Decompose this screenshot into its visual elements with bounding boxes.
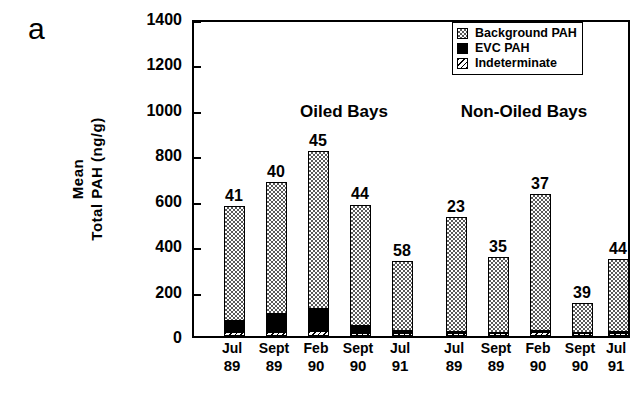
x-tick-year: 90 [304,356,329,376]
bar-value-label: 58 [393,242,411,260]
bar [572,303,593,336]
bar-segment-indeterminate [392,333,413,336]
bar-segment-background-pah [446,217,467,332]
bar-value-label: 35 [489,238,507,256]
legend-label: EVC PAH [475,42,530,55]
bar-segment-evc-pah [308,309,329,331]
bar-segment-indeterminate [224,332,245,336]
bar [308,151,329,336]
y-axis-title-line1: Mean [69,159,86,199]
x-tick-year: 91 [390,356,410,376]
bar-segment-indeterminate [572,333,593,336]
y-tick-label: 1400 [146,11,182,29]
y-axis-tick-mark [194,66,201,68]
x-tick-year: 89 [444,356,464,376]
bar [392,261,413,336]
y-tick-label: 200 [155,284,182,302]
bar [224,206,245,336]
bar [530,194,551,336]
y-tick-label: 1000 [146,102,182,120]
legend-swatch-evc-icon [457,43,468,54]
bar [266,182,287,336]
y-axis-tick-mark [194,21,201,23]
y-axis-tick-mark [194,157,201,159]
x-tick-year: 89 [259,356,289,376]
x-tick-month: Feb [304,340,329,356]
x-tick-month: Jul [606,340,626,356]
y-axis-title: Mean Total PAH (ng/g) [58,20,118,338]
y-tick-label: 400 [155,238,182,256]
x-tick-year: 89 [222,356,242,376]
legend-item: Indeterminate [457,56,577,71]
y-axis-tick-mark [194,248,201,250]
bar-segment-indeterminate [266,332,287,336]
legend-swatch-indeterminate-icon [457,58,468,69]
bar-value-label: 37 [531,175,549,193]
y-tick-label: 1200 [146,56,182,74]
x-tick-month: Feb [526,340,551,356]
x-tick-year: 91 [606,356,626,376]
x-tick-label: Sept90 [565,340,595,376]
x-tick-month: Sept [481,340,511,356]
chart-legend: Background PAHEVC PAHIndeterminate [452,22,583,75]
x-tick-label: Feb90 [526,340,551,376]
x-tick-year: 89 [481,356,511,376]
x-tick-label: Sept89 [481,340,511,376]
bar-value-label: 45 [309,132,327,150]
bar-segment-background-pah [572,303,593,333]
y-axis-tick-mark [194,203,201,205]
x-tick-label: Jul89 [222,340,242,376]
legend-label: Indeterminate [475,57,557,70]
bar-value-label: 41 [225,187,243,205]
bar-segment-background-pah [530,194,551,331]
bar-value-label: 23 [447,198,465,216]
x-tick-label: Jul91 [606,340,626,376]
group-title-oiled: Oiled Bays [300,102,388,122]
bar-segment-background-pah [392,261,413,331]
x-tick-year: 90 [526,356,551,376]
x-axis-tick-labels: Jul89Sept89Feb90Sept90Jul91Jul89Sept89Fe… [192,340,630,396]
panel-letter: a [28,14,45,44]
bar-segment-indeterminate [350,333,371,336]
x-tick-label: Jul91 [390,340,410,376]
x-tick-label: Sept90 [343,340,373,376]
bar-segment-indeterminate [608,333,629,336]
x-tick-month: Jul [222,340,242,356]
figure-panel: a Mean Total PAH (ng/g) 0200400600800100… [0,0,644,402]
bar-segment-evc-pah [266,314,287,332]
x-tick-year: 90 [343,356,373,376]
bar-segment-background-pah [266,182,287,314]
bar-segment-background-pah [224,206,245,321]
x-tick-month: Jul [390,340,410,356]
x-tick-month: Sept [343,340,373,356]
y-axis-tick-mark [194,112,201,114]
bar-segment-evc-pah [224,321,245,332]
y-axis-tick-mark [194,294,201,296]
group-title-non-oiled: Non-Oiled Bays [461,102,588,122]
bar-segment-evc-pah [350,326,371,333]
bar-segment-evc-pah [392,331,413,333]
x-tick-month: Sept [259,340,289,356]
legend-item: EVC PAH [457,41,577,56]
x-tick-month: Jul [444,340,464,356]
bar-segment-background-pah [488,257,509,333]
y-tick-label: 0 [173,329,182,347]
y-axis-tick-labels: 0200400600800100012001400 [120,20,188,338]
bar-segment-background-pah [350,205,371,327]
x-tick-year: 90 [565,356,595,376]
bar-value-label: 44 [609,240,627,258]
bar-segment-indeterminate [488,333,509,336]
legend-swatch-background-icon [457,28,468,39]
bar-segment-indeterminate [446,333,467,336]
x-tick-label: Feb90 [304,340,329,376]
bar-value-label: 44 [351,185,369,203]
legend-item: Background PAH [457,26,577,41]
bar [608,259,629,336]
y-axis-title-line2: Total PAH (ng/g) [88,117,105,240]
legend-label: Background PAH [475,27,577,40]
bar-value-label: 40 [267,163,285,181]
bar-segment-background-pah [308,151,329,309]
bar-segment-indeterminate [308,331,329,336]
bar-value-label: 39 [573,284,591,302]
bar [488,257,509,337]
